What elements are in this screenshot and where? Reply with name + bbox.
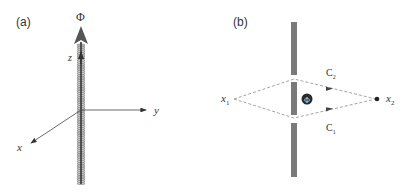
flux-symbol-a: Φ bbox=[76, 10, 85, 24]
path-c1-label: C1 bbox=[326, 122, 336, 135]
start-point-label: x1 bbox=[220, 92, 230, 107]
barrier-top bbox=[291, 22, 297, 75]
end-point-label: x2 bbox=[385, 92, 395, 107]
figure: (a) Φ z y x (b) bbox=[0, 0, 409, 193]
x-axis-label: x bbox=[16, 141, 22, 153]
z-axis-label: z bbox=[67, 52, 72, 63]
panel-b-label: (b) bbox=[233, 15, 248, 29]
y-axis-label: y bbox=[153, 104, 159, 116]
panel-a-label: (a) bbox=[16, 15, 31, 29]
path-c2-label: C2 bbox=[326, 67, 336, 80]
panel-a: (a) Φ z y x bbox=[16, 10, 159, 185]
flux-symbol-b: Φ bbox=[304, 96, 310, 105]
barrier-bottom bbox=[291, 123, 297, 177]
end-point-dot bbox=[375, 97, 380, 102]
x-axis bbox=[31, 110, 81, 143]
barrier-middle bbox=[291, 82, 297, 115]
path-c2-arrow-icon bbox=[326, 87, 333, 91]
panel-b: (b) Φ x1 x2 C2 C1 bbox=[220, 15, 395, 177]
flux-arrowhead-icon bbox=[74, 26, 88, 44]
